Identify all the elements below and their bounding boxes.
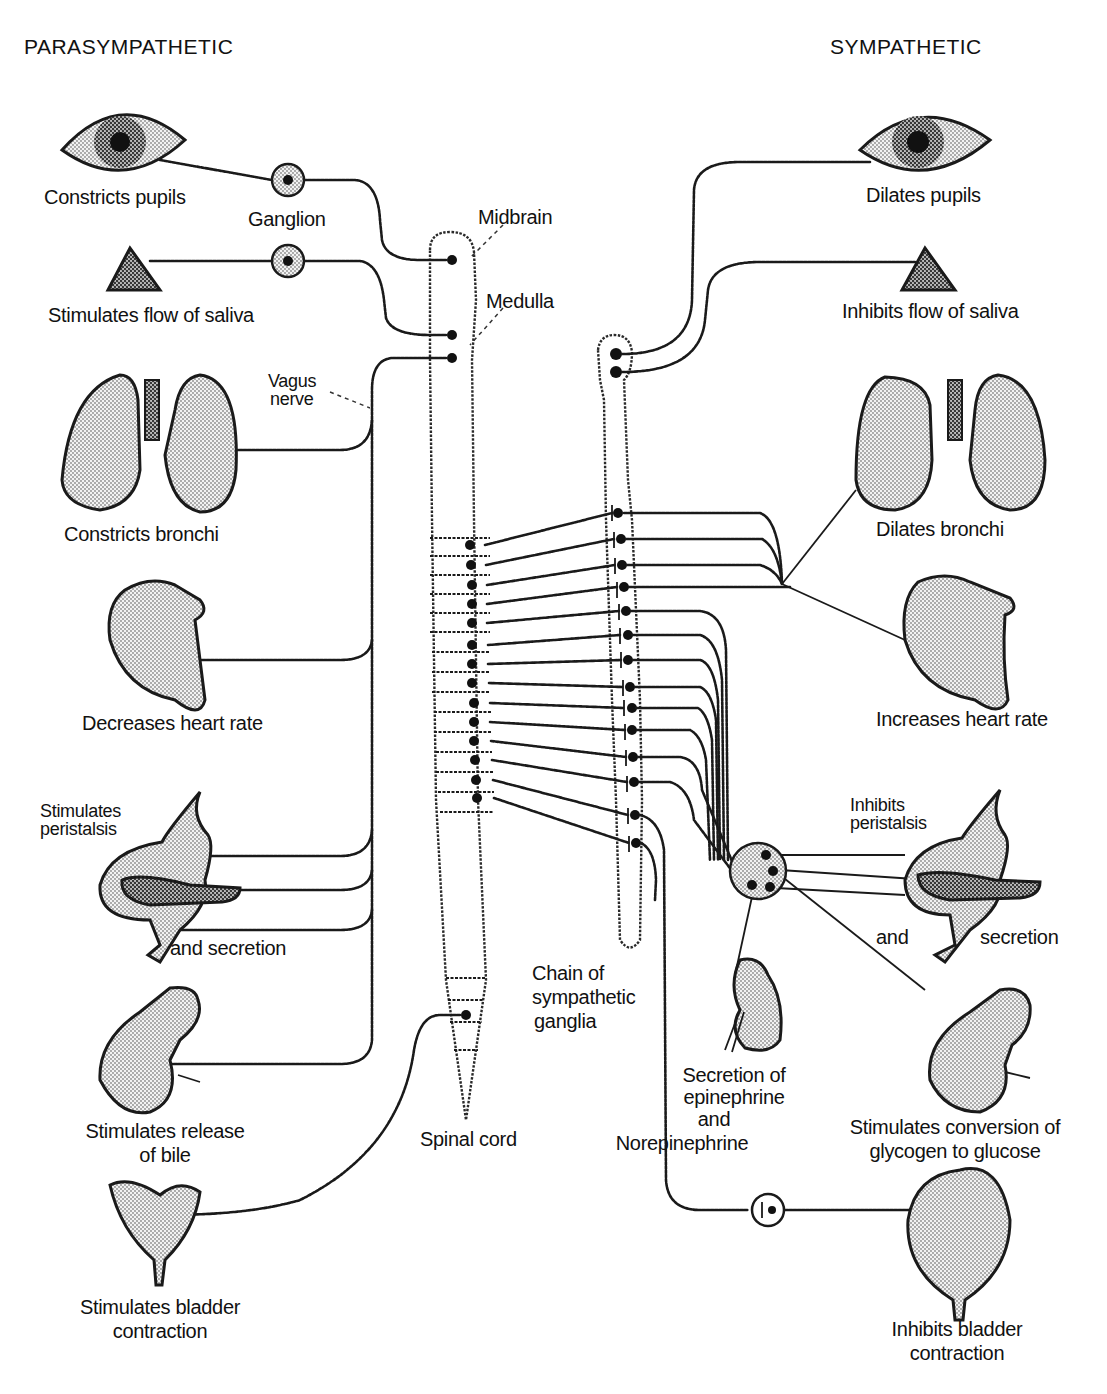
label-and-right: and [876,926,908,948]
lungs-right [856,375,1045,510]
midbrain-label: Midbrain [478,206,552,228]
label-decreases-heart-rate: Decreases heart rate [82,712,263,734]
leader-lines [330,225,503,408]
bladder-ganglion-sympathetic [752,1194,784,1226]
label-and-secretion-left: and secretion [170,937,286,959]
chain-label-line2: sympathetic [532,986,635,1008]
salivary-gland-left [108,248,160,290]
parasympathetic-title: PARASYMPATHETIC [24,36,233,58]
heart-left [109,581,205,710]
label-dilates-pupils: Dilates pupils [866,184,981,206]
label-glycogen-line1: Stimulates conversion of [850,1116,1061,1138]
lungs-left [62,375,236,512]
label-inhibits-peristalsis-line2: peristalsis [850,814,927,832]
liver-right [930,989,1031,1112]
sympathetic-title: SYMPATHETIC [830,36,982,58]
label-inhibits-bladder-line1: Inhibits bladder [892,1318,1023,1340]
ganglion-parasympathetic-eye [272,164,304,196]
label-secretion-right: secretion [980,926,1058,948]
sympathetic-ganglia-chain [598,335,642,948]
spinal-cord-label: Spinal cord [420,1128,517,1150]
label-epinephrine: epinephrine [683,1086,784,1108]
label-release-bile-line1: Stimulates release [85,1120,244,1142]
vagus-nerve-label-line2: nerve [270,390,314,408]
liver-left [100,988,200,1113]
label-stimulates-saliva: Stimulates flow of saliva [48,304,254,326]
label-release-bile-line2: of bile [139,1144,190,1166]
heart-right [904,576,1014,709]
label-inhibits-peristalsis-line1: Inhibits [850,796,905,814]
medulla-label: Medulla [486,290,554,312]
eye-right [860,116,990,170]
autonomic-nervous-system-diagram [0,0,1107,1394]
celiac-ganglion [730,843,786,899]
label-stimulates-peristalsis-line1: Stimulates [40,802,121,820]
spinal-cord [430,232,494,1120]
label-and-epi: and [698,1108,730,1130]
label-constricts-bronchi: Constricts bronchi [64,523,219,545]
label-stimulates-bladder-line2: contraction [113,1320,208,1342]
label-inhibits-saliva: Inhibits flow of saliva [842,300,1019,322]
bladder-left [110,1182,200,1285]
chain-label-line3: ganglia [534,1010,596,1032]
label-glycogen-line2: glycogen to glucose [869,1140,1040,1162]
label-stimulates-peristalsis-line2: peristalsis [40,820,117,838]
label-dilates-bronchi: Dilates bronchi [876,518,1004,540]
label-stimulates-bladder-line1: Stimulates bladder [80,1296,240,1318]
adrenal-kidney [725,959,781,1052]
bladder-right [908,1169,1010,1320]
ganglion-label: Ganglion [248,208,326,230]
label-inhibits-bladder-line2: contraction [910,1342,1005,1364]
ganglion-parasympathetic-saliva [272,245,304,277]
label-secretion-of: Secretion of [682,1064,785,1086]
label-increases-heart-rate: Increases heart rate [876,708,1048,730]
salivary-gland-right [902,248,955,290]
vagus-nerve-label-line1: Vagus [268,372,316,390]
sympathetic-branches [735,490,930,990]
label-constricts-pupils: Constricts pupils [44,186,186,208]
chain-label-line1: Chain of [532,962,604,984]
label-norepinephrine: Norepinephrine [616,1132,749,1154]
